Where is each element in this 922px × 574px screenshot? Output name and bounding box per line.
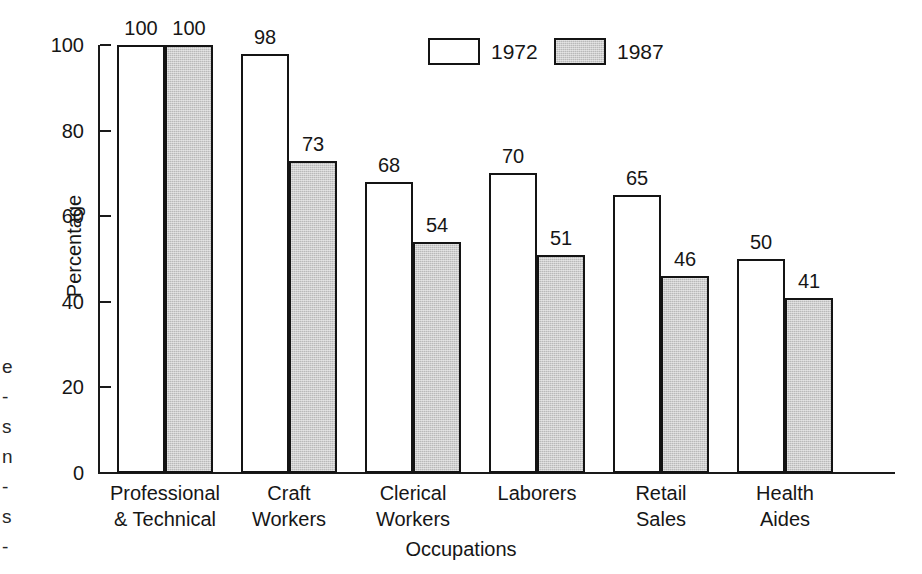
x-axis-category-label: Health Aides bbox=[700, 480, 870, 532]
page-edge-fragment: - bbox=[2, 472, 22, 502]
legend-item-1987[interactable]: 1987 bbox=[554, 38, 664, 65]
bar-value-label: 65 bbox=[603, 168, 671, 188]
bar-1987-healthaides[interactable] bbox=[785, 298, 833, 473]
bar-1987-laborers[interactable] bbox=[537, 255, 585, 473]
bar-1987-retailsales[interactable] bbox=[661, 276, 709, 473]
bar-1972-laborers[interactable] bbox=[489, 173, 537, 473]
bar-1987-clericalworkers[interactable] bbox=[413, 242, 461, 473]
x-axis-title: Occupations bbox=[0, 538, 922, 560]
bar-chart-figure: e-sn-s- 020406080100 Percentage 100100Pr… bbox=[0, 0, 922, 574]
page-edge-fragment: - bbox=[2, 382, 22, 412]
bar-1972-craftworkers[interactable] bbox=[241, 54, 289, 473]
page-edge-fragment: e bbox=[2, 352, 22, 382]
bar-value-label: 73 bbox=[279, 134, 347, 154]
page-edge-fragment: s bbox=[2, 502, 22, 532]
page-edge-fragment: n bbox=[2, 442, 22, 472]
y-axis-tick-label: 100 bbox=[28, 35, 84, 55]
y-axis-tick-label-text: 0 bbox=[28, 463, 84, 483]
page-edge-fragments: e-sn-s- bbox=[0, 352, 22, 567]
bar-1972-retailsales[interactable] bbox=[613, 195, 661, 473]
y-axis-tick-label: 20 bbox=[28, 377, 84, 397]
y-axis-tick-label-text: 80 bbox=[28, 121, 84, 141]
legend-label: 1972 bbox=[491, 41, 538, 62]
bar-value-label: 46 bbox=[651, 249, 719, 269]
bar-value-label: 100 bbox=[155, 18, 223, 38]
bar-value-label: 41 bbox=[775, 271, 843, 291]
y-axis-tick-label: 0 bbox=[28, 463, 84, 483]
gray-swatch-icon bbox=[554, 38, 606, 65]
bar-value-label: 70 bbox=[479, 146, 547, 166]
y-axis-tick bbox=[100, 472, 111, 474]
y-axis-title: Percentage bbox=[64, 166, 84, 326]
y-axis-tick bbox=[100, 301, 111, 303]
legend-label: 1987 bbox=[617, 41, 664, 62]
bar-1972-healthaides[interactable] bbox=[737, 259, 785, 473]
y-axis-tick-label-text: 20 bbox=[28, 377, 84, 397]
page-edge-fragment: s bbox=[2, 412, 22, 442]
white-swatch-icon bbox=[428, 38, 480, 65]
y-axis-line bbox=[98, 45, 100, 474]
y-axis-tick-label-text: 100 bbox=[28, 35, 84, 55]
bar-value-label: 98 bbox=[231, 27, 299, 47]
y-axis-tick bbox=[100, 386, 111, 388]
y-axis-tick bbox=[100, 44, 111, 46]
bar-value-label: 54 bbox=[403, 215, 471, 235]
y-axis-tick-label: 80 bbox=[28, 121, 84, 141]
y-axis-tick bbox=[100, 215, 111, 217]
bar-1972-professionaltechnical[interactable] bbox=[117, 45, 165, 473]
legend-item-1972[interactable]: 1972 bbox=[428, 38, 538, 65]
y-axis-tick bbox=[100, 130, 111, 132]
bar-value-label: 50 bbox=[727, 232, 795, 252]
bar-1987-professionaltechnical[interactable] bbox=[165, 45, 213, 473]
bar-1987-craftworkers[interactable] bbox=[289, 161, 337, 473]
bar-value-label: 51 bbox=[527, 228, 595, 248]
bar-value-label: 68 bbox=[355, 155, 423, 175]
